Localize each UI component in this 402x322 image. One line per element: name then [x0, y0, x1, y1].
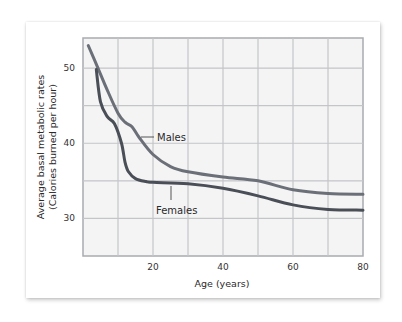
males-label: Males — [157, 132, 186, 143]
x-axis-title: Age (years) — [195, 278, 250, 289]
x-tick-label: 80 — [357, 262, 369, 272]
y-tick-label: 40 — [64, 138, 76, 148]
x-tick-label: 40 — [217, 262, 229, 272]
y-tick-label: 50 — [64, 63, 76, 73]
metabolic-rate-chart: 304050 20406080 Males Females Age (years… — [0, 0, 402, 322]
females-label: Females — [156, 205, 197, 216]
x-tick-label: 20 — [147, 262, 159, 272]
x-axis-ticks: 20406080 — [147, 262, 369, 272]
y-axis-ticks: 304050 — [64, 63, 76, 223]
y-tick-label: 30 — [64, 213, 76, 223]
x-tick-label: 60 — [287, 262, 299, 272]
y-axis-title-line2: (Calories burned per hour) — [47, 84, 58, 210]
y-axis-title-line1: Average basal metabolic rates — [35, 75, 46, 220]
y-axis-title: Average basal metabolic rates (Calories … — [35, 75, 58, 220]
